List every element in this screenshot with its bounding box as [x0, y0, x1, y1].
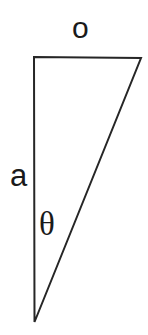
angle-label-theta: θ [39, 208, 55, 241]
triangle-diagram-canvas: o a θ [0, 0, 148, 335]
side-label-adjacent: a [10, 160, 27, 191]
triangle-outline [34, 57, 141, 322]
side-label-opposite: o [72, 13, 89, 43]
